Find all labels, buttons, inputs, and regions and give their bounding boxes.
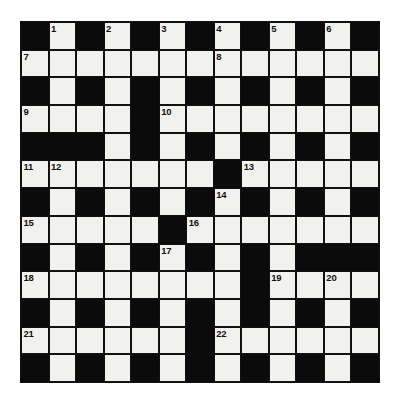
grid-open-cell[interactable]: 13 (241, 160, 269, 188)
grid-open-cell[interactable] (186, 50, 214, 78)
grid-open-cell[interactable]: 14 (214, 188, 242, 216)
grid-open-cell[interactable] (159, 50, 187, 78)
grid-open-cell[interactable] (324, 216, 352, 244)
grid-open-cell[interactable]: 8 (214, 50, 242, 78)
grid-open-cell[interactable] (49, 271, 77, 299)
grid-open-cell[interactable] (324, 327, 352, 355)
grid-open-cell[interactable] (214, 244, 242, 272)
grid-open-cell[interactable] (49, 327, 77, 355)
grid-open-cell[interactable]: 22 (214, 327, 242, 355)
grid-open-cell[interactable] (351, 216, 379, 244)
grid-open-cell[interactable] (269, 354, 297, 382)
grid-open-cell[interactable] (104, 271, 132, 299)
grid-open-cell[interactable]: 10 (159, 105, 187, 133)
grid-open-cell[interactable] (76, 105, 104, 133)
grid-open-cell[interactable] (269, 216, 297, 244)
grid-open-cell[interactable] (104, 299, 132, 327)
grid-open-cell[interactable] (104, 160, 132, 188)
grid-open-cell[interactable] (324, 105, 352, 133)
grid-open-cell[interactable] (324, 299, 352, 327)
grid-open-cell[interactable] (104, 188, 132, 216)
grid-open-cell[interactable] (241, 50, 269, 78)
grid-open-cell[interactable] (269, 160, 297, 188)
grid-open-cell[interactable] (214, 77, 242, 105)
grid-open-cell[interactable] (131, 327, 159, 355)
grid-open-cell[interactable] (104, 327, 132, 355)
grid-open-cell[interactable]: 12 (49, 160, 77, 188)
grid-open-cell[interactable] (104, 50, 132, 78)
grid-open-cell[interactable] (269, 299, 297, 327)
grid-open-cell[interactable]: 1 (49, 22, 77, 50)
grid-open-cell[interactable] (186, 105, 214, 133)
grid-open-cell[interactable] (269, 105, 297, 133)
grid-open-cell[interactable] (49, 216, 77, 244)
grid-open-cell[interactable] (76, 216, 104, 244)
grid-open-cell[interactable]: 9 (21, 105, 49, 133)
grid-open-cell[interactable] (159, 133, 187, 161)
grid-open-cell[interactable] (49, 188, 77, 216)
grid-open-cell[interactable]: 17 (159, 244, 187, 272)
grid-open-cell[interactable] (351, 50, 379, 78)
grid-open-cell[interactable] (159, 327, 187, 355)
grid-open-cell[interactable]: 6 (324, 22, 352, 50)
grid-open-cell[interactable] (269, 133, 297, 161)
grid-open-cell[interactable]: 7 (21, 50, 49, 78)
grid-open-cell[interactable] (49, 105, 77, 133)
grid-open-cell[interactable] (324, 354, 352, 382)
grid-open-cell[interactable] (269, 188, 297, 216)
grid-open-cell[interactable] (241, 327, 269, 355)
grid-open-cell[interactable] (104, 105, 132, 133)
grid-open-cell[interactable] (159, 299, 187, 327)
grid-open-cell[interactable] (351, 160, 379, 188)
grid-open-cell[interactable] (324, 160, 352, 188)
grid-open-cell[interactable] (186, 160, 214, 188)
grid-open-cell[interactable] (49, 354, 77, 382)
grid-open-cell[interactable]: 2 (104, 22, 132, 50)
grid-open-cell[interactable] (214, 105, 242, 133)
grid-open-cell[interactable] (104, 354, 132, 382)
grid-open-cell[interactable] (49, 299, 77, 327)
grid-open-cell[interactable] (214, 216, 242, 244)
grid-open-cell[interactable] (104, 244, 132, 272)
grid-open-cell[interactable] (351, 271, 379, 299)
grid-open-cell[interactable] (49, 77, 77, 105)
grid-open-cell[interactable] (324, 188, 352, 216)
grid-open-cell[interactable] (76, 271, 104, 299)
grid-open-cell[interactable] (214, 354, 242, 382)
grid-open-cell[interactable] (186, 271, 214, 299)
grid-open-cell[interactable] (296, 50, 324, 78)
grid-open-cell[interactable] (296, 216, 324, 244)
grid-open-cell[interactable]: 15 (21, 216, 49, 244)
grid-open-cell[interactable] (159, 271, 187, 299)
grid-open-cell[interactable] (351, 105, 379, 133)
grid-open-cell[interactable]: 19 (269, 271, 297, 299)
crossword-grid[interactable]: 12345678910111213141516171819202122 (20, 21, 380, 383)
grid-open-cell[interactable]: 18 (21, 271, 49, 299)
grid-open-cell[interactable] (76, 50, 104, 78)
grid-open-cell[interactable] (49, 244, 77, 272)
grid-open-cell[interactable] (76, 327, 104, 355)
grid-open-cell[interactable] (159, 77, 187, 105)
grid-open-cell[interactable] (324, 77, 352, 105)
grid-open-cell[interactable] (296, 105, 324, 133)
grid-open-cell[interactable] (131, 271, 159, 299)
grid-open-cell[interactable] (104, 77, 132, 105)
grid-open-cell[interactable]: 16 (186, 216, 214, 244)
grid-open-cell[interactable] (131, 160, 159, 188)
grid-open-cell[interactable] (49, 50, 77, 78)
grid-open-cell[interactable] (351, 327, 379, 355)
grid-open-cell[interactable] (214, 133, 242, 161)
grid-open-cell[interactable] (296, 271, 324, 299)
grid-open-cell[interactable] (269, 327, 297, 355)
grid-open-cell[interactable] (214, 299, 242, 327)
grid-open-cell[interactable] (159, 354, 187, 382)
grid-open-cell[interactable] (241, 216, 269, 244)
grid-open-cell[interactable] (269, 77, 297, 105)
grid-open-cell[interactable] (296, 327, 324, 355)
grid-open-cell[interactable]: 5 (269, 22, 297, 50)
grid-open-cell[interactable] (131, 216, 159, 244)
grid-open-cell[interactable] (296, 160, 324, 188)
grid-open-cell[interactable] (159, 188, 187, 216)
grid-open-cell[interactable] (324, 133, 352, 161)
grid-open-cell[interactable]: 3 (159, 22, 187, 50)
